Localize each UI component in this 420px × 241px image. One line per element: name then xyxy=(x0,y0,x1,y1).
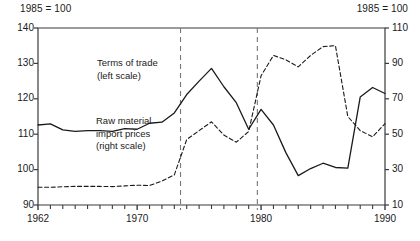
x-axis-tick-1970: 1970 xyxy=(124,213,150,224)
right-axis-tick-50: 50 xyxy=(392,128,420,139)
x-axis-tick-1980: 1980 xyxy=(248,213,274,224)
left-axis-tick-100: 100 xyxy=(2,163,34,174)
chart-frame xyxy=(38,28,385,205)
chart-plot-area xyxy=(0,0,420,241)
right-axis-tick-70: 70 xyxy=(392,92,420,103)
left-axis-tick-140: 140 xyxy=(2,22,34,33)
left-axis-tick-120: 120 xyxy=(2,92,34,103)
x-axis-tick-1990: 1990 xyxy=(372,213,398,224)
chart-series-lines xyxy=(38,46,385,188)
right-axis-tick-110: 110 xyxy=(392,22,420,33)
right-axis-tick-30: 30 xyxy=(392,163,420,174)
left-axis-tick-130: 130 xyxy=(2,57,34,68)
chart-vertical-markers xyxy=(181,28,258,210)
x-axis-tick-1962: 1962 xyxy=(25,213,51,224)
left-axis-tick-110: 110 xyxy=(2,128,34,139)
right-axis-tick-90: 90 xyxy=(392,57,420,68)
chart-tick-marks xyxy=(34,28,389,210)
left-axis-tick-90: 90 xyxy=(2,199,34,210)
chart-container: 1985 = 100 1985 = 100 Terms of trade (le… xyxy=(0,0,420,241)
right-axis-tick-10: 10 xyxy=(392,199,420,210)
